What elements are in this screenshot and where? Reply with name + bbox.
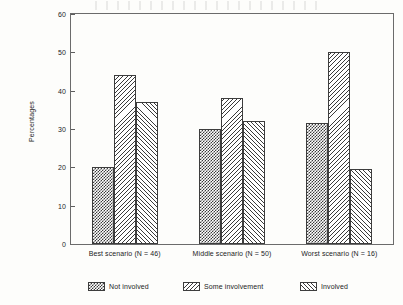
grouped-bar-chart: Percentages 0102030405060 Best scenario …: [0, 0, 403, 305]
chart-legend: Not involvedSome involvementInvolved: [0, 282, 403, 298]
y-tick-label: 0: [0, 241, 66, 248]
legend-label: Some involvement: [204, 283, 263, 291]
bar-group: [71, 14, 178, 244]
y-tick-label: 30: [0, 126, 66, 133]
y-tick-label: 40: [0, 87, 66, 94]
bar: [92, 167, 114, 244]
bar: [306, 123, 328, 244]
scan-artifact: [95, 1, 325, 10]
y-tick-label: 50: [0, 49, 66, 56]
y-tick-label: 60: [0, 11, 66, 18]
bar: [199, 129, 221, 244]
bar: [136, 102, 158, 244]
legend-label: Not involved: [109, 283, 149, 291]
legend-label: Involved: [321, 283, 348, 291]
legend-swatch-icon: [300, 282, 317, 291]
y-tick-label: 10: [0, 202, 66, 209]
x-tick-label: Worst scenario (N = 16): [269, 250, 403, 258]
bar: [221, 98, 243, 244]
bar-group: [178, 14, 285, 244]
legend-item[interactable]: Not involved: [88, 282, 149, 291]
legend-item[interactable]: Involved: [300, 282, 348, 291]
y-tick-label: 20: [0, 164, 66, 171]
bar: [328, 52, 350, 244]
bars-layer: [71, 14, 393, 244]
bar: [243, 121, 265, 244]
legend-swatch-icon: [183, 282, 200, 291]
bar-group: [286, 14, 393, 244]
legend-swatch-icon: [88, 282, 105, 291]
legend-item[interactable]: Some involvement: [183, 282, 263, 291]
bar: [114, 75, 136, 244]
bar: [350, 169, 372, 244]
